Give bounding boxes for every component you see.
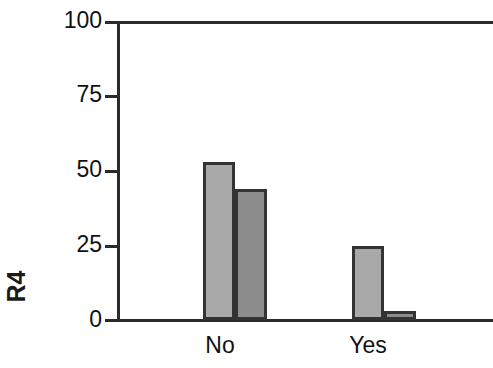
plot-area [120,22,493,320]
bar-no-series-2 [235,189,267,320]
y-tick-label-50: 50 [40,158,102,181]
bar-chart: R4 100 75 50 25 0 No Yes [0,0,493,368]
bar-no-series-1 [203,162,235,320]
y-axis-title: R4 [2,257,31,317]
y-tick-label-100: 100 [40,9,102,32]
x-axis-label-no: No [185,334,255,357]
x-axis-label-yes: Yes [333,334,403,357]
y-tick-label-75: 75 [40,83,102,106]
y-tick-label-25: 25 [40,233,102,256]
y-tick-label-0: 0 [40,308,102,331]
bar-yes-series-2 [384,311,416,320]
bar-yes-series-1 [352,246,384,321]
